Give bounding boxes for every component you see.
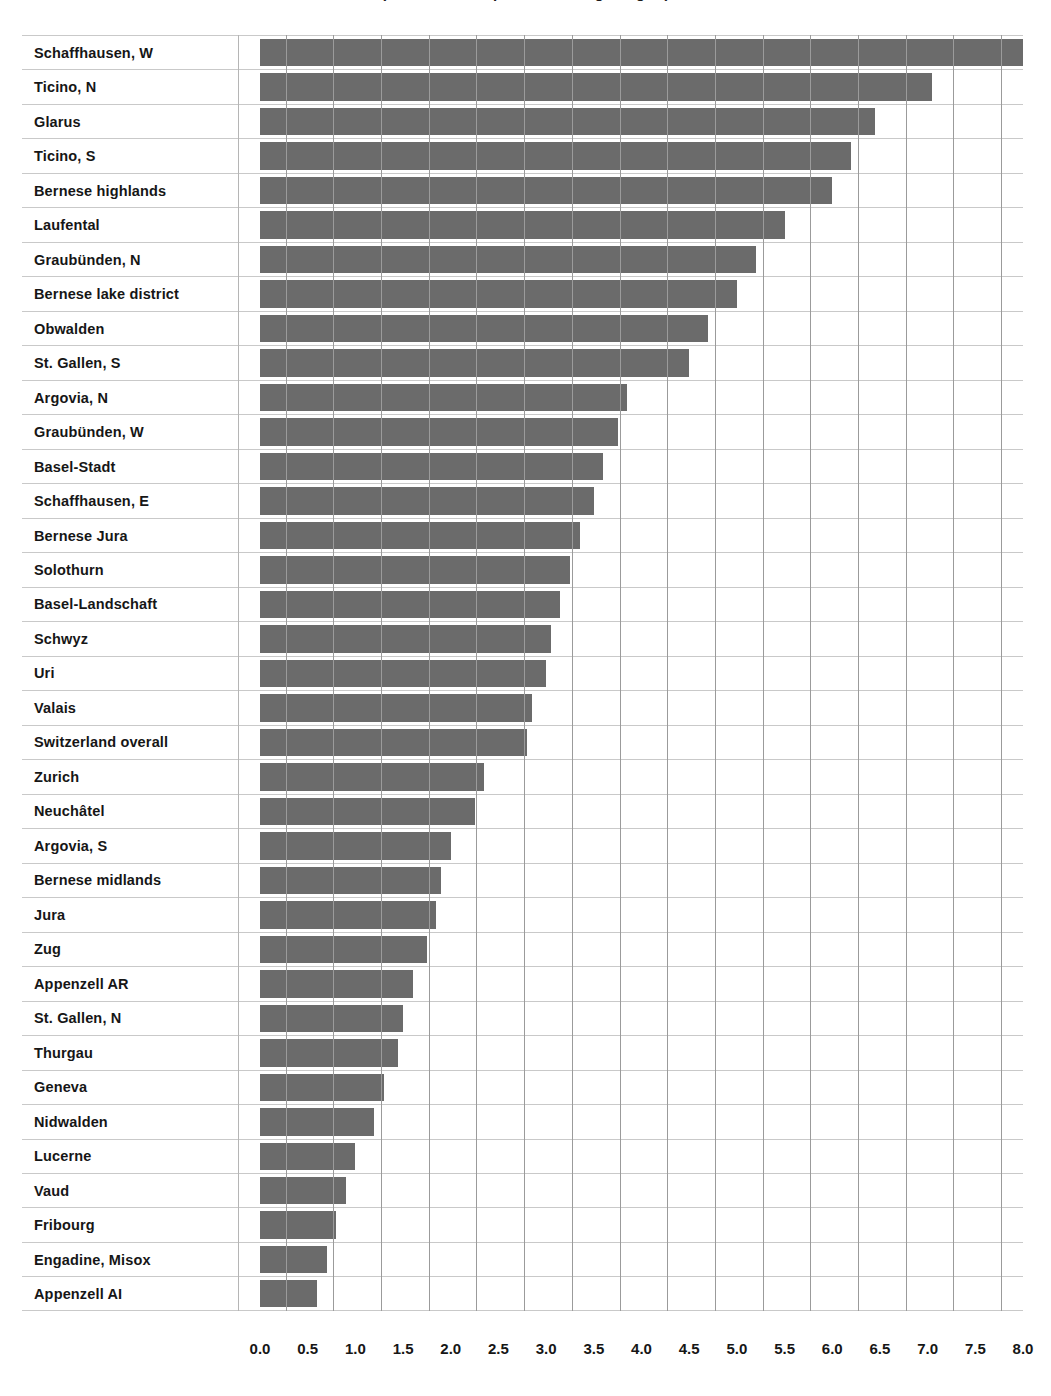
category-label: Schaffhausen, W	[34, 45, 153, 61]
category-label: Nidwalden	[34, 1114, 108, 1130]
chart-title: (incidence rate per 100 000 regular grid…	[0, 0, 1051, 6]
bar	[260, 936, 427, 963]
bar	[260, 1280, 317, 1306]
category-row: Basel-Landschaft	[22, 587, 260, 621]
category-row: Lucerne	[22, 1139, 260, 1173]
category-row: Bernese lake district	[22, 276, 260, 310]
category-row: Basel-Stadt	[22, 449, 260, 483]
x-tick-label: 7.5	[965, 1340, 986, 1357]
category-row: Obwalden	[22, 311, 260, 345]
category-row: Bernese highlands	[22, 173, 260, 207]
category-row: Zug	[22, 932, 260, 966]
bar-row	[260, 759, 1023, 793]
bar-row	[260, 966, 1023, 1000]
category-row: Schaffhausen, W	[22, 35, 260, 69]
x-tick-label: 6.0	[822, 1340, 843, 1357]
bar	[260, 694, 532, 721]
category-row: Schaffhausen, E	[22, 483, 260, 517]
category-row: Valais	[22, 690, 260, 724]
bar-row	[260, 587, 1023, 621]
category-row: Argovia, N	[22, 380, 260, 414]
category-row: Graubünden, N	[22, 242, 260, 276]
category-label: Neuchâtel	[34, 803, 105, 819]
category-label: Vaud	[34, 1183, 69, 1199]
category-label: Zug	[34, 941, 61, 957]
bar	[260, 556, 570, 583]
bar	[260, 73, 932, 100]
category-label: Zurich	[34, 769, 79, 785]
bar	[260, 729, 527, 756]
category-label: Switzerland overall	[34, 734, 168, 750]
x-tick-label: 2.0	[440, 1340, 461, 1357]
bar-row	[260, 518, 1023, 552]
category-label: Appenzell AR	[34, 976, 129, 992]
category-label: Engadine, Misox	[34, 1252, 151, 1268]
bar-row	[260, 552, 1023, 586]
category-label: Graubünden, N	[34, 252, 141, 268]
bar-row	[260, 1173, 1023, 1207]
bar-row	[260, 380, 1023, 414]
x-tick-label: 0.5	[297, 1340, 318, 1357]
bar	[260, 177, 832, 204]
category-label: Glarus	[34, 114, 81, 130]
bar	[260, 867, 441, 894]
category-row: Schwyz	[22, 621, 260, 655]
bar	[260, 798, 475, 825]
category-row: Solothurn	[22, 552, 260, 586]
bar	[260, 1005, 403, 1032]
category-label: Geneva	[34, 1079, 87, 1095]
x-tick-label: 3.0	[536, 1340, 557, 1357]
bar	[260, 418, 618, 445]
x-tick-label: 5.5	[774, 1340, 795, 1357]
plot-area: Schaffhausen, WTicino, NGlarusTicino, SB…	[22, 35, 1023, 1311]
bar-row	[260, 1242, 1023, 1276]
bar-row	[260, 276, 1023, 310]
category-label: Bernese midlands	[34, 872, 161, 888]
category-row: Bernese Jura	[22, 518, 260, 552]
category-label: Schaffhausen, E	[34, 493, 149, 509]
category-row: Fribourg	[22, 1207, 260, 1241]
category-label: Basel-Landschaft	[34, 596, 157, 612]
category-label: Schwyz	[34, 631, 88, 647]
x-tick-label: 8.0	[1013, 1340, 1034, 1357]
bar	[260, 349, 689, 376]
category-row: Graubünden, W	[22, 414, 260, 448]
bar	[260, 763, 484, 790]
category-label: Fribourg	[34, 1217, 95, 1233]
bar-row	[260, 794, 1023, 828]
x-tick-label: 1.0	[345, 1340, 366, 1357]
category-row: Jura	[22, 897, 260, 931]
bar	[260, 901, 436, 928]
bar	[260, 832, 451, 859]
category-label: Bernese Jura	[34, 528, 128, 544]
category-row: Glarus	[22, 104, 260, 138]
category-label: Jura	[34, 907, 65, 923]
bars-column	[260, 35, 1023, 1311]
category-row: Ticino, S	[22, 138, 260, 172]
bar-row	[260, 656, 1023, 690]
x-tick-label: 7.0	[917, 1340, 938, 1357]
category-label: Thurgau	[34, 1045, 93, 1061]
x-tick-label: 6.5	[870, 1340, 891, 1357]
x-tick-label: 0.0	[250, 1340, 271, 1357]
bar-row	[260, 35, 1023, 69]
category-label: Argovia, N	[34, 390, 108, 406]
category-label: Laufental	[34, 217, 100, 233]
bar-row	[260, 932, 1023, 966]
bar-row	[260, 863, 1023, 897]
category-label: Ticino, N	[34, 79, 96, 95]
bar	[260, 384, 627, 411]
category-row: St. Gallen, N	[22, 1001, 260, 1035]
bar-row	[260, 725, 1023, 759]
bar	[260, 142, 851, 169]
bar	[260, 108, 875, 135]
bar-row	[260, 138, 1023, 172]
category-row: Bernese midlands	[22, 863, 260, 897]
category-label: St. Gallen, S	[34, 355, 121, 371]
category-label: St. Gallen, N	[34, 1010, 121, 1026]
bar	[260, 1211, 336, 1238]
bar	[260, 487, 594, 514]
category-row: Appenzell AI	[22, 1276, 260, 1310]
x-tick-label: 4.0	[631, 1340, 652, 1357]
bar-row	[260, 897, 1023, 931]
